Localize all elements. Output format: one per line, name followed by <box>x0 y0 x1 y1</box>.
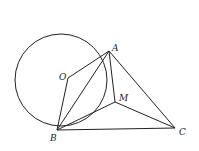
label-a: A <box>111 43 119 53</box>
segment-oa <box>68 51 109 78</box>
label-m: M <box>118 93 129 103</box>
segment-am <box>109 51 115 102</box>
segment-mc <box>115 102 175 128</box>
segment-ac <box>109 51 175 128</box>
segments <box>57 51 175 130</box>
geometry-figure: A O M B C <box>0 0 199 151</box>
segment-ab <box>57 51 109 130</box>
label-o: O <box>59 72 67 82</box>
segment-bc <box>57 128 175 130</box>
label-c: C <box>179 127 186 137</box>
label-b: B <box>49 133 57 143</box>
